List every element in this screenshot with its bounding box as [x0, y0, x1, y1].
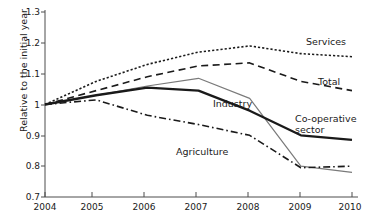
series-label-agriculture: Agriculture [176, 146, 228, 157]
series-label-co-operative-sector: Co-operative sector [295, 113, 359, 135]
line-chart: Relative to the initial year 1.3 1.2 1.1… [0, 0, 366, 223]
plot-area [0, 0, 366, 223]
series-label-services: Services [306, 36, 346, 47]
x-tick-marks [45, 192, 352, 197]
y-tick-marks [41, 12, 45, 197]
series-label-industry: Industry [213, 98, 252, 109]
series-label-total: Total [318, 76, 340, 87]
